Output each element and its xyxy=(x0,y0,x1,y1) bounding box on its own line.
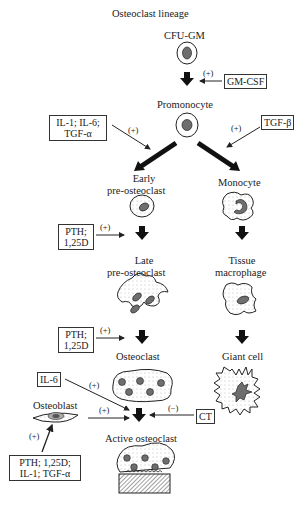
sign-plus: (+) xyxy=(100,325,110,335)
label-tissue: Tissue xyxy=(222,255,262,267)
factor-pth-125d-1: PTH; 1,25D xyxy=(58,224,94,250)
factor-line: IL-1; TGF-α xyxy=(12,468,78,479)
sign-plus: (+) xyxy=(128,125,138,135)
arrow-down-icon xyxy=(132,408,146,422)
factor-line: IL-1; IL-6; xyxy=(52,117,104,128)
early-pre-osteoclast-cell-icon xyxy=(130,195,154,217)
factor-il1-il6-tgfa: IL-1; IL-6; TGF-α xyxy=(49,115,107,141)
arrow-down-icon xyxy=(135,330,149,344)
factor-ct: CT xyxy=(196,409,215,424)
arrow-down-icon xyxy=(180,72,194,86)
sign-plus: (+) xyxy=(203,68,213,78)
label-osteoclast: Osteoclast xyxy=(116,351,160,363)
label-macrophage: macrophage xyxy=(215,267,266,279)
label-giant-cell: Giant cell xyxy=(222,351,263,363)
bone-surface-icon xyxy=(119,474,170,493)
label-early: Early xyxy=(124,173,164,185)
factor-line: 1,25D xyxy=(61,340,91,351)
factor-gm-csf: GM-CSF xyxy=(224,74,267,89)
label-early-pre-osteoclast: pre-osteoclast xyxy=(107,185,165,197)
factor-line: 1,25D xyxy=(61,237,91,248)
arrow-down-icon xyxy=(235,330,249,344)
label-osteoblast: Osteoblast xyxy=(33,400,77,412)
tissue-macrophage-cell-icon xyxy=(223,283,256,315)
label-promonocyte: Promonocyte xyxy=(157,99,213,111)
arrow-down-icon xyxy=(235,226,249,240)
label-late: Late xyxy=(124,255,164,267)
label-active-osteoclast: Active osteoclast xyxy=(105,433,177,445)
factor-pth-125d-il1-tgfa: PTH; 1,25D; IL-1; TGF-α xyxy=(9,455,81,481)
factor-line: TGF-α xyxy=(52,128,104,139)
sign-plus: (+) xyxy=(100,222,110,232)
factor-line: PTH; xyxy=(61,226,91,237)
factor-il6: IL-6 xyxy=(37,372,61,387)
label-monocyte: Monocyte xyxy=(218,177,261,189)
promonocyte-cell-icon xyxy=(176,113,198,137)
sign-plus: (+) xyxy=(29,431,39,441)
sign-plus: (+) xyxy=(231,123,241,133)
monocyte-cell-icon xyxy=(223,192,254,220)
factor-tgf-beta: TGF-β xyxy=(261,115,294,130)
sign-plus: (+) xyxy=(89,380,99,390)
sign-minus: (−) xyxy=(168,403,178,413)
sign-plus: (+) xyxy=(99,405,109,415)
factor-pth-125d-2: PTH; 1,25D xyxy=(58,327,94,353)
late-pre-osteoclast-cell-icon xyxy=(118,273,169,314)
osteoclast-cell-icon xyxy=(113,369,173,401)
arrow-down-icon xyxy=(135,226,149,240)
giant-cell-icon xyxy=(214,367,260,415)
factor-line: PTH; xyxy=(61,329,91,340)
cfu-gm-cell-icon xyxy=(177,42,197,64)
label-cfu-gm: CFU-GM xyxy=(164,30,205,42)
osteoblast-cell-icon xyxy=(33,413,78,423)
factor-line: PTH; 1,25D; xyxy=(12,457,78,468)
active-osteoclast-cell-icon xyxy=(117,443,175,472)
diagram-title: Osteoclast lineage xyxy=(112,8,189,20)
label-late-pre-osteoclast: pre-osteoclast xyxy=(107,267,165,279)
